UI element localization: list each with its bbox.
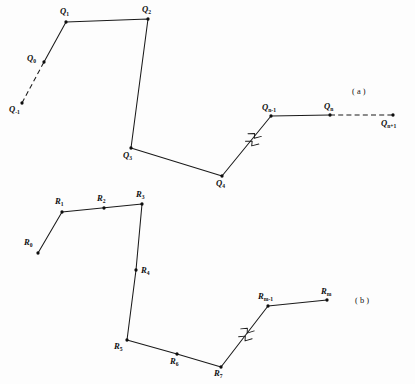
point-label-Q-n: Qn — [324, 102, 333, 111]
vertex-dot-R-2 — [102, 206, 105, 209]
vertex-dot-Q-n-plus-1 — [391, 113, 394, 116]
vertex-dot-R-m — [325, 298, 328, 301]
point-label-Q-3: Q3 — [123, 151, 132, 160]
point-label-Q-0: Q0 — [27, 54, 36, 63]
vertex-dot-Q-minus-1 — [20, 101, 23, 104]
point-label-Q-n-minus-1: Qn-1 — [262, 103, 276, 112]
point-label-R-m: Rm — [321, 287, 331, 296]
vertex-dot-Q-3 — [129, 146, 132, 149]
point-label-R-7: R7 — [214, 369, 223, 378]
vertex-dot-R-4 — [134, 268, 137, 271]
vertex-dot-Q-2 — [146, 17, 149, 20]
panel-a-dashed-left — [22, 62, 44, 103]
panel-b-solid-polyline — [38, 204, 327, 367]
panel-b-group — [36, 202, 328, 368]
panel-caption-b: ( b ) — [355, 297, 369, 305]
point-label-R-2: R2 — [97, 194, 106, 203]
vertex-dot-R-m-minus-1 — [266, 304, 269, 307]
vertex-dot-Q-n-minus-1 — [269, 114, 272, 117]
point-label-R-m-minus-1: Rm-1 — [258, 292, 273, 301]
point-label-Q-4: Q4 — [216, 179, 225, 188]
point-label-R-4: R4 — [141, 266, 150, 275]
vertex-dot-R-5 — [125, 338, 128, 341]
point-label-Q-2: Q2 — [142, 5, 151, 14]
figure-root: Q-1 Q0 Q1 Q2 Q3 Q4 Qn-1 Qn Qn+1 ( a ) R0… — [0, 0, 415, 384]
point-label-Q-minus-1: Q-1 — [9, 105, 20, 114]
vertex-dot-R-1 — [60, 210, 63, 213]
panel-a-solid-polyline — [44, 19, 330, 176]
point-label-R-6: R6 — [170, 357, 179, 366]
vertex-dot-Q-n — [328, 113, 331, 116]
panel-caption-a: ( a ) — [352, 88, 365, 96]
vertex-dot-Q-1 — [64, 20, 67, 23]
figure-drawing-canvas — [0, 0, 415, 384]
point-label-R-1: R1 — [55, 197, 64, 206]
point-label-Q-n-plus-1: Qn+1 — [381, 119, 396, 128]
panel-a-group — [20, 17, 394, 177]
point-label-Q-1: Q1 — [60, 7, 69, 16]
point-label-R-5: R5 — [114, 342, 123, 351]
point-label-R-0: R0 — [24, 238, 33, 247]
vertex-dot-R-0 — [36, 251, 39, 254]
vertex-dot-Q-0 — [42, 60, 45, 63]
vertex-dot-R-3 — [140, 202, 143, 205]
point-label-R-3: R3 — [136, 190, 145, 199]
